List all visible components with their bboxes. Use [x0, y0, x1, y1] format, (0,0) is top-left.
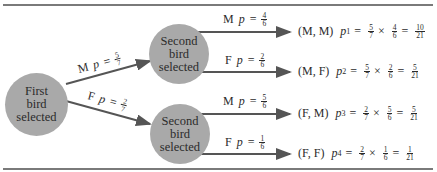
equals-sign: =	[401, 24, 408, 39]
outcome-pair: (M, F)	[298, 64, 329, 79]
outcome-row: (M, F) p2 = 57 × 26 = 521	[298, 64, 419, 79]
times-sign: ×	[378, 24, 385, 39]
denominator: 6	[384, 154, 388, 161]
prob-symbol: p	[237, 135, 243, 150]
node-label-line: bird	[159, 48, 199, 61]
fraction: 121	[406, 146, 414, 161]
node-label-line: selected	[159, 61, 199, 74]
denominator: 21	[416, 32, 424, 39]
prob-symbol: p	[239, 12, 245, 27]
branch-label-upper-m: M p = 46	[223, 12, 267, 27]
fraction: 521	[411, 64, 419, 79]
outcome-pair: (M, M)	[298, 24, 333, 39]
fraction: 26	[388, 64, 394, 79]
equals-sign: =	[250, 94, 257, 109]
denominator: 7	[364, 114, 368, 121]
fraction: 26	[259, 53, 265, 68]
sex-label: F	[225, 53, 232, 68]
equals-sign: =	[392, 146, 399, 161]
sex-label: M	[223, 12, 234, 27]
fraction: 27	[359, 146, 365, 161]
prob-symbol: p	[239, 94, 245, 109]
denominator: 6	[262, 102, 266, 109]
branch-label-lower-m: M p = 56	[223, 94, 267, 109]
equals-sign: =	[349, 106, 356, 121]
outcome-row: (F, M) p3 = 27 × 56 = 521	[298, 106, 418, 121]
prob-subscript: 1	[346, 27, 350, 36]
prob-symbol: p	[97, 91, 107, 107]
prob-symbol: p	[237, 53, 243, 68]
denominator: 6	[262, 20, 266, 27]
denominator: 7	[116, 59, 121, 67]
branch-label-lower-f: F p = 16	[225, 135, 265, 150]
equals-sign: =	[248, 135, 255, 150]
times-sign: ×	[373, 106, 380, 121]
denominator: 7	[365, 72, 369, 79]
fraction: 521	[410, 106, 418, 121]
denominator: 6	[260, 61, 264, 68]
fraction: 1021	[415, 24, 425, 39]
equals-sign: =	[396, 106, 403, 121]
denominator: 6	[388, 114, 392, 121]
outcome-pair: (F, M)	[298, 106, 328, 121]
equals-sign: =	[108, 94, 118, 110]
node-label-line: bird	[160, 128, 200, 141]
denominator: 21	[406, 154, 414, 161]
equals-sign: =	[102, 54, 112, 70]
branch-label-upper-f: F p = 26	[225, 53, 265, 68]
fraction: 56	[387, 106, 393, 121]
prob-subscript: 4	[337, 149, 341, 158]
sex-label: F	[225, 135, 232, 150]
node-label-line: Second	[159, 35, 199, 48]
denominator: 7	[360, 154, 364, 161]
equals-sign: =	[248, 53, 255, 68]
times-sign: ×	[374, 64, 381, 79]
times-sign: ×	[369, 146, 376, 161]
equals-sign: =	[345, 146, 352, 161]
outcome-row: (F, F) p4 = 27 × 16 = 121	[298, 146, 414, 161]
node-label-line: selected	[160, 141, 200, 154]
prob-subscript: 2	[342, 67, 346, 76]
node-first-bird: First bird selected	[5, 73, 68, 136]
denominator: 21	[410, 114, 418, 121]
node-label-line: Second	[160, 115, 200, 128]
fraction: 46	[392, 24, 398, 39]
outcome-row: (M, M) p1 = 57 × 46 = 1021	[298, 24, 425, 39]
denominator: 7	[369, 32, 373, 39]
prob-symbol: p	[91, 57, 101, 73]
denominator: 6	[393, 32, 397, 39]
denominator: 6	[389, 72, 393, 79]
fraction: 16	[259, 135, 265, 150]
node-label-line: selected	[16, 111, 56, 124]
prob-subscript: 3	[341, 109, 345, 118]
node-second-bird-lower: Second bird selected	[150, 104, 210, 164]
equals-sign: =	[250, 12, 257, 27]
fraction: 57	[368, 24, 374, 39]
outcome-pair: (F, F)	[298, 146, 324, 161]
equals-sign: =	[397, 64, 404, 79]
denominator: 7	[120, 105, 125, 113]
equals-sign: =	[354, 24, 361, 39]
fraction: 16	[383, 146, 389, 161]
sex-label: M	[223, 94, 234, 109]
node-second-bird-upper: Second bird selected	[149, 24, 209, 84]
fraction: 56	[261, 94, 267, 109]
fraction: 27	[363, 106, 369, 121]
equals-sign: =	[350, 64, 357, 79]
denominator: 21	[411, 72, 419, 79]
denominator: 6	[260, 143, 264, 150]
fraction: 46	[261, 12, 267, 27]
fraction: 57	[364, 64, 370, 79]
